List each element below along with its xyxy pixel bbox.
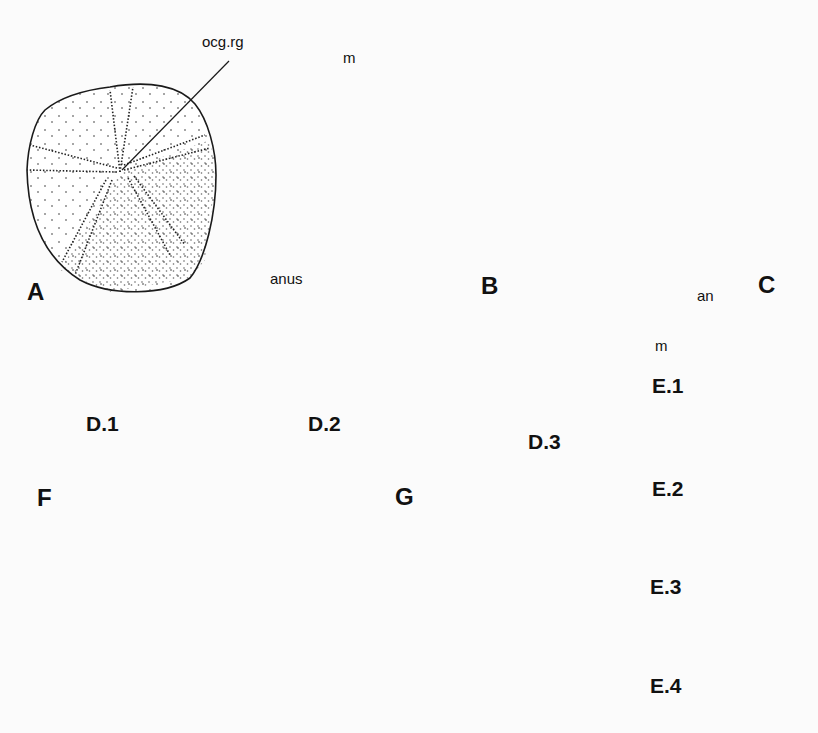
panel-label-e1: E.1 [652, 375, 684, 396]
figure-plate [0, 0, 818, 733]
panel-label-f: F [37, 486, 52, 510]
panel-label-e3: E.3 [650, 576, 682, 597]
annotation-anus-e1: an [697, 288, 714, 303]
panel-label-e4: E.4 [650, 675, 682, 696]
panel-label-d3: D.3 [528, 431, 561, 452]
panel-label-d2: D.2 [308, 413, 341, 434]
panel-label-d1: D.1 [86, 413, 119, 434]
annotation-mouth-e1: m [655, 338, 668, 353]
panel-label-c: C [758, 273, 775, 297]
panel-label-e2: E.2 [652, 478, 684, 499]
panel-label-b: B [481, 274, 498, 298]
annotation-ocg-rg: ocg.rg [202, 34, 244, 49]
panel-label-g: G [395, 485, 414, 509]
panel-label-a: A [27, 280, 44, 304]
annotation-mouth-b: m [343, 50, 356, 65]
annotation-anus: anus [270, 271, 303, 286]
panel-a-drawing [27, 61, 229, 292]
